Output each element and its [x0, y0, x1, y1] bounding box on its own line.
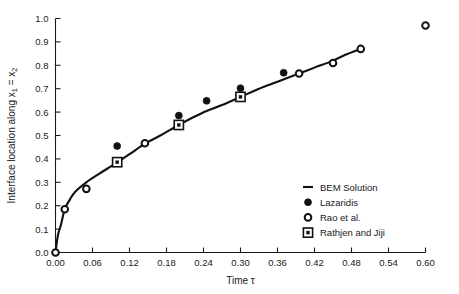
chart-legend: BEM SolutionLazaridisRao et al.Rathjen a… [303, 182, 385, 239]
legend-item: BEM Solution [303, 182, 378, 193]
legend-item: Rathjen and Jiji [303, 227, 385, 238]
legend-item-label: Rathjen and Jiji [320, 227, 385, 238]
x-tick-label: 0.42 [305, 257, 324, 268]
legend-item-label: Lazaridis [320, 197, 358, 208]
y-tick-label: 0.9 [35, 36, 48, 47]
x-tick-label: 0.48 [342, 257, 361, 268]
x-tick-label: 0.24 [194, 257, 213, 268]
rao-et-al-marker [422, 22, 429, 29]
x-tick-label: 0.00 [46, 257, 65, 268]
chart-plot-area: 0.000.060.120.180.240.300.360.420.480.54… [0, 0, 459, 294]
rao-et-al-marker [142, 140, 149, 147]
x-axis-tick-labels: 0.000.060.120.180.240.300.360.420.480.54… [46, 257, 435, 268]
x-axis-ticks [56, 248, 426, 253]
x-tick-label: 0.18 [157, 257, 176, 268]
y-tick-label: 0.4 [35, 153, 48, 164]
data-series-group [52, 22, 429, 256]
legend-item: Lazaridis [305, 197, 359, 208]
rao-et-al-marker [357, 46, 364, 53]
lazaridis-marker [114, 143, 121, 150]
bem-solution-curve [56, 49, 361, 253]
rao-et-al-marker [296, 70, 303, 77]
y-tick-label: 0.1 [35, 224, 48, 235]
y-axis-title: Interface location along x1 = x2 [6, 68, 20, 204]
y-axis-tick-labels: 0.00.10.20.30.40.50.60.70.80.91.0 [35, 13, 48, 258]
lazaridis-marker [175, 112, 182, 119]
series-bem-solution [56, 49, 361, 253]
y-tick-label: 0.3 [35, 177, 48, 188]
y-tick-label: 0.7 [35, 83, 48, 94]
legend-item-label: BEM Solution [320, 182, 378, 193]
x-tick-label: 0.54 [379, 257, 398, 268]
legend-item-label: Rao et al. [320, 212, 361, 223]
lazaridis-marker [237, 85, 244, 92]
y-tick-label: 0.8 [35, 60, 48, 71]
y-tick-label: 0.2 [35, 200, 48, 211]
axes [56, 19, 426, 253]
series-lazaridis [114, 69, 288, 149]
x-tick-label: 0.60 [416, 257, 435, 268]
x-tick-label: 0.12 [120, 257, 139, 268]
rathjen-and-jiji-marker [174, 120, 183, 129]
rao-et-al-marker [330, 60, 337, 67]
x-tick-label: 0.36 [268, 257, 287, 268]
rathjen-and-jiji-marker [236, 92, 245, 101]
lazaridis-marker [280, 69, 287, 76]
rao-et-al-marker [83, 186, 90, 193]
x-tick-label: 0.06 [83, 257, 102, 268]
open-circle-icon [305, 214, 312, 221]
y-tick-label: 0.6 [35, 107, 48, 118]
rao-et-al-marker [52, 249, 59, 256]
rathjen-and-jiji-marker [113, 158, 122, 167]
chart-figure: 0.000.060.120.180.240.300.360.420.480.54… [0, 0, 459, 294]
x-tick-label: 0.30 [231, 257, 250, 268]
y-tick-label: 0.0 [35, 247, 48, 258]
square-dot-icon [303, 228, 312, 237]
y-tick-label: 1.0 [35, 13, 48, 24]
rao-et-al-marker [61, 206, 68, 213]
y-tick-label: 0.5 [35, 130, 48, 141]
x-axis-title: Time τ [226, 275, 255, 286]
y-axis-ticks [56, 19, 61, 253]
legend-item: Rao et al. [305, 212, 361, 223]
filled-circle-icon [305, 199, 312, 206]
lazaridis-marker [203, 97, 210, 104]
series-rao-et-al [52, 22, 429, 256]
